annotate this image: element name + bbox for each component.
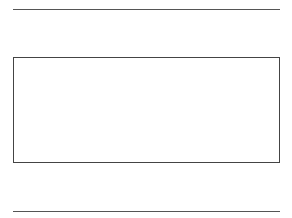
bottom-rule (13, 211, 280, 212)
bar-chart (13, 57, 280, 163)
top-rule (13, 9, 280, 10)
